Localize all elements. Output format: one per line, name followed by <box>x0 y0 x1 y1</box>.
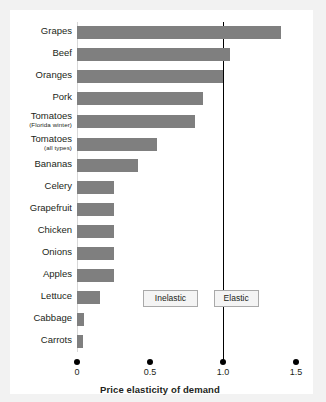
category-label: Cabbage <box>10 313 72 323</box>
region-label-inelastic: Inelastic <box>143 290 198 307</box>
axis-tick-dot <box>147 359 153 365</box>
axis-tick-dot <box>220 359 226 365</box>
category-label: Onions <box>10 247 72 257</box>
chart-panel: GrapesBeefOrangesPorkTomatoes(Florida wi… <box>10 10 313 394</box>
bar <box>77 225 114 238</box>
bar <box>77 70 223 83</box>
axis-tick-label: 0 <box>62 367 92 377</box>
category-label-text: Grapefruit <box>30 202 72 213</box>
category-sublabel-text: (Florida winter) <box>10 121 72 128</box>
category-label-text: Onions <box>42 246 72 257</box>
x-axis-title: Price elasticity of demand <box>50 384 270 395</box>
axis-tick-dot <box>74 359 80 365</box>
category-label-text: Beef <box>52 47 72 58</box>
bar-row: Oranges <box>10 68 313 90</box>
bar-row: Onions <box>10 245 313 267</box>
category-label: Apples <box>10 269 72 279</box>
bar <box>77 26 281 39</box>
category-label: Carrots <box>10 335 72 345</box>
category-label-text: Cabbage <box>33 312 72 323</box>
axis-tick-label: 1.0 <box>208 367 238 377</box>
category-label: Bananas <box>10 159 72 169</box>
bar <box>77 115 195 128</box>
bar-row: Chicken <box>10 223 313 245</box>
category-label-text: Pork <box>52 91 72 102</box>
axis-tick-label: 0.5 <box>135 367 165 377</box>
bar <box>77 138 157 151</box>
category-label: Oranges <box>10 70 72 80</box>
bar <box>77 313 84 326</box>
category-label-text: Apples <box>43 268 72 279</box>
category-label: Grapes <box>10 26 72 36</box>
bar-row: Grapes <box>10 24 313 46</box>
axis-tick-dot <box>293 359 299 365</box>
category-label: Grapefruit <box>10 203 72 213</box>
region-label-elastic: Elastic <box>214 290 259 307</box>
bar <box>77 92 203 105</box>
category-label-text: Bananas <box>34 158 72 169</box>
category-label-text: Tomatoes <box>31 133 72 144</box>
bar-row: Bananas <box>10 157 313 179</box>
category-label: Lettuce <box>10 291 72 301</box>
category-label-text: Tomatoes <box>31 110 72 121</box>
bar-row: Beef <box>10 46 313 68</box>
category-label-text: Celery <box>45 180 72 191</box>
bar <box>77 48 230 61</box>
category-label: Tomatoes(Florida winter) <box>10 111 72 128</box>
category-label-text: Oranges <box>36 69 72 80</box>
bar-row: Tomatoes(all types) <box>10 135 313 157</box>
bar-row: Apples <box>10 267 313 289</box>
category-label: Beef <box>10 48 72 58</box>
category-label-text: Grapes <box>41 25 72 36</box>
category-label-text: Chicken <box>38 224 72 235</box>
bar-row: Cabbage <box>10 311 313 333</box>
bar-row: Carrots <box>10 333 313 355</box>
plot-area: GrapesBeefOrangesPorkTomatoes(Florida wi… <box>10 10 313 394</box>
bar <box>77 159 138 172</box>
chart-figure: GrapesBeefOrangesPorkTomatoes(Florida wi… <box>0 0 326 402</box>
category-label: Tomatoes(all types) <box>10 134 72 151</box>
bar-row: Celery <box>10 179 313 201</box>
category-label: Celery <box>10 181 72 191</box>
bar <box>77 247 114 260</box>
bar <box>77 181 114 194</box>
bar-row: Pork <box>10 90 313 112</box>
category-label-text: Lettuce <box>41 290 72 301</box>
category-label-text: Carrots <box>41 334 72 345</box>
bar-row: Grapefruit <box>10 201 313 223</box>
bar <box>77 335 83 348</box>
category-label: Chicken <box>10 225 72 235</box>
axis-tick-label: 1.5 <box>281 367 311 377</box>
bar <box>77 291 100 304</box>
bar <box>77 269 114 282</box>
bar-row: Tomatoes(Florida winter) <box>10 112 313 134</box>
bar <box>77 203 114 216</box>
category-label: Pork <box>10 92 72 102</box>
category-sublabel-text: (all types) <box>10 144 72 151</box>
